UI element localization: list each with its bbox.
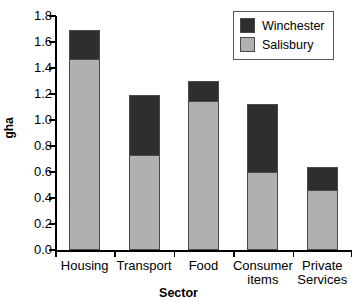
legend-item[interactable]: Salisbury — [240, 35, 325, 54]
y-axis-tick — [49, 223, 56, 225]
y-axis-tick — [49, 93, 56, 95]
bar-segment-winchester[interactable] — [247, 104, 278, 172]
bar-consumer-items[interactable] — [247, 104, 278, 250]
y-axis-tick — [49, 197, 56, 199]
y-tick-label: 1.2 — [16, 87, 52, 100]
y-axis-tick-labels: 0.00.20.40.60.81.01.21.41.61.8 — [16, 0, 52, 302]
bar-private-services[interactable] — [307, 167, 338, 250]
bar-segment-salisbury[interactable] — [129, 155, 160, 250]
y-axis-tick — [49, 15, 56, 17]
y-tick-label: 0.2 — [16, 217, 52, 230]
legend-item[interactable]: Winchester — [240, 16, 325, 35]
legend-swatch-icon — [240, 18, 255, 33]
y-axis-tick — [49, 41, 56, 43]
legend-label: Winchester — [262, 19, 325, 33]
bar-segment-winchester[interactable] — [69, 30, 100, 59]
x-axis-tick — [174, 251, 176, 257]
bar-food[interactable] — [188, 81, 219, 250]
bar-segment-winchester[interactable] — [129, 95, 160, 155]
bar-segment-winchester[interactable] — [188, 81, 219, 101]
y-tick-label: 0.8 — [16, 139, 52, 152]
bar-segment-winchester[interactable] — [307, 167, 338, 190]
y-tick-label: 1.8 — [16, 9, 52, 22]
x-axis-tick — [55, 251, 57, 257]
y-axis-tick — [49, 145, 56, 147]
y-tick-label: 0.4 — [16, 191, 52, 204]
x-axis-line — [55, 250, 352, 252]
legend-swatch-icon — [240, 37, 255, 52]
bar-segment-salisbury[interactable] — [69, 59, 100, 250]
y-axis-tick — [49, 67, 56, 69]
bar-segment-salisbury[interactable] — [307, 190, 338, 250]
legend-label: Salisbury — [262, 38, 313, 52]
y-axis-title: gha — [2, 103, 16, 153]
x-axis-tick — [351, 251, 353, 257]
x-axis-tick — [114, 251, 116, 257]
bar-housing[interactable] — [69, 30, 100, 250]
y-tick-label: 1.4 — [16, 61, 52, 74]
chart-legend: WinchesterSalisbury — [233, 11, 334, 60]
y-axis-tick — [49, 119, 56, 121]
x-axis-label: Private Services — [285, 259, 357, 287]
bar-segment-salisbury[interactable] — [188, 101, 219, 251]
stacked-bar-chart: gha 0.00.20.40.60.81.01.21.41.61.8 Secto… — [0, 0, 357, 302]
y-tick-label: 1.6 — [16, 35, 52, 48]
x-axis-tick — [293, 251, 295, 257]
bar-segment-salisbury[interactable] — [247, 172, 278, 250]
x-axis-tick — [233, 251, 235, 257]
y-tick-label: 1.0 — [16, 113, 52, 126]
x-axis-title: Sector — [0, 286, 357, 300]
bar-transport[interactable] — [129, 95, 160, 250]
y-axis-tick — [49, 171, 56, 173]
y-tick-label: 0.0 — [16, 243, 52, 256]
y-tick-label: 0.6 — [16, 165, 52, 178]
